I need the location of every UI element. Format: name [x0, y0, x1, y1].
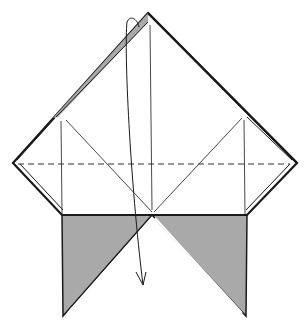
left-flap [62, 215, 152, 316]
paper-outline [13, 13, 297, 215]
right-flap [152, 215, 247, 316]
origami-diagram [0, 0, 304, 329]
